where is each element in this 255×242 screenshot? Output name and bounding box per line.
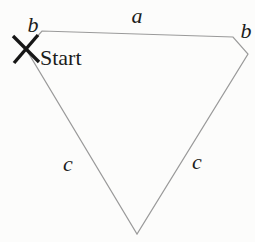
side-a-label: a [132,5,143,27]
side-b-right-label: b [241,20,252,42]
side-c-right-label: c [192,151,202,173]
diagram-canvas: a b b c c Start [0,0,255,242]
side-c-left-label: c [63,153,73,175]
start-x-marker [13,35,39,63]
side-b-left-label: b [28,14,39,36]
start-label: Start [40,47,82,69]
